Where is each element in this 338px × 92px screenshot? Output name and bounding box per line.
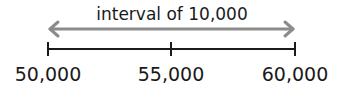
interval-arrow xyxy=(50,22,293,36)
tick-label-50000: 50,000 xyxy=(15,63,81,85)
tick-label-55000: 55,000 xyxy=(138,63,204,85)
tick-label-60000: 60,000 xyxy=(262,63,328,85)
number-line xyxy=(48,42,295,56)
